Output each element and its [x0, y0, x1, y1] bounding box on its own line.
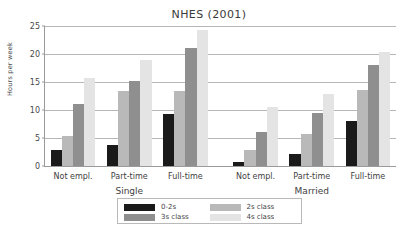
plot-area: 0510152025 Not empl.Part-timeFull-timeNo…	[44, 26, 396, 167]
bar	[267, 107, 278, 166]
x-tick-label: Not empl.	[236, 172, 275, 181]
bar	[244, 150, 255, 166]
legend: 0-2s 2s class 3s class 4s class	[117, 198, 302, 224]
bar	[197, 30, 208, 166]
x-tick-label: Full-time	[168, 172, 203, 181]
legend-label-3s-class: 3s class	[161, 213, 189, 221]
bar	[62, 136, 73, 166]
x-axis-group-label: Single	[115, 186, 143, 196]
legend-swatch-3s-class	[124, 214, 155, 221]
legend-item-2s-class[interactable]: 2s class	[210, 203, 296, 211]
bar	[233, 162, 244, 166]
legend-swatch-0-2s	[124, 204, 155, 211]
y-tick-label: 5	[35, 134, 40, 143]
bar	[368, 65, 379, 166]
bar	[129, 81, 140, 166]
y-axis-label: Hours per week	[6, 42, 14, 96]
y-tick-label: 10	[30, 106, 40, 115]
legend-row: 0-2s 2s class	[124, 202, 295, 212]
bar	[312, 113, 323, 166]
legend-swatch-2s-class	[210, 204, 241, 211]
bar	[118, 91, 129, 166]
bar	[323, 94, 334, 166]
y-tick-label: 0	[35, 162, 40, 171]
bar	[256, 132, 267, 166]
bar	[107, 145, 118, 166]
legend-label-2s-class: 2s class	[247, 203, 275, 211]
bar	[140, 60, 151, 166]
bar	[51, 150, 62, 166]
legend-item-4s-class[interactable]: 4s class	[210, 213, 296, 221]
x-tick-label: Not empl.	[54, 172, 93, 181]
chart-title: NHES (2001)	[0, 8, 418, 21]
bar	[289, 154, 300, 166]
bar	[379, 52, 390, 166]
x-tick-label: Part-time	[293, 172, 330, 181]
chart-figure: NHES (2001) Hours per week 0510152025 No…	[0, 0, 418, 231]
y-tick-label: 15	[30, 78, 40, 87]
legend-item-3s-class[interactable]: 3s class	[124, 213, 210, 221]
legend-label-4s-class: 4s class	[247, 213, 275, 221]
bar	[346, 121, 357, 166]
legend-label-0-2s: 0-2s	[161, 203, 176, 211]
bar	[185, 48, 196, 166]
bar	[84, 78, 95, 166]
bar	[301, 134, 312, 166]
y-tick-label: 20	[30, 50, 40, 59]
x-axis-group-label: Married	[295, 186, 329, 196]
y-tick-label: 25	[30, 22, 40, 31]
bars-layer	[45, 26, 396, 166]
bar	[73, 104, 84, 166]
legend-item-0-2s[interactable]: 0-2s	[124, 203, 210, 211]
bar	[357, 90, 368, 166]
legend-swatch-4s-class	[210, 214, 241, 221]
bar	[174, 91, 185, 166]
legend-row: 3s class 4s class	[124, 212, 295, 222]
x-tick-label: Part-time	[111, 172, 148, 181]
x-tick-label: Full-time	[351, 172, 386, 181]
bar	[163, 114, 174, 166]
